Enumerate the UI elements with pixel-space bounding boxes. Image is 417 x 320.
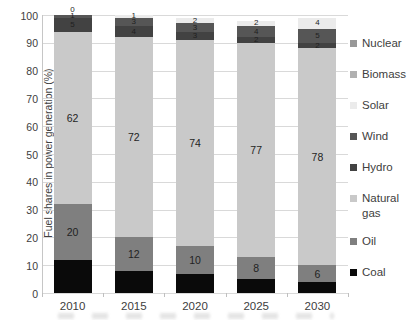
segment-label-solar-2010: 0 [70,6,74,14]
x-category-label-2010: 2010 [60,300,86,312]
y-tick-label-80: 80 [8,65,38,77]
segment-label-oil-2025: 8 [253,263,259,274]
legend-item-coal: Coal [350,265,416,283]
legend-item-hydro: Hydro [350,160,416,178]
segment-label-natural-gas-2015: 72 [128,132,140,143]
legend-label: Coal [362,265,386,280]
segment-label-hydro-2020: 3 [193,32,197,40]
legend-swatch-natural-gas-icon [350,195,357,202]
legend-swatch-nuclear-icon [350,40,357,47]
segment-label-solar-2020: 2 [193,17,197,25]
segment-label-wind-2030: 5 [315,32,319,40]
legend-item-solar: Solar [350,98,416,116]
legend-swatch-hydro-icon [350,164,357,171]
y-tick-label-0: 0 [8,288,38,300]
legend-label: Natural gas [362,191,416,221]
legend-label: Nuclear [362,36,402,51]
y-tick-label-50: 50 [8,149,38,161]
legend-swatch-solar-icon [350,102,357,109]
legend-label: Biomass [362,67,406,82]
chart-legend: NuclearBiomassSolarWindHydroNatural gasO… [350,36,416,283]
legend-swatch-coal-icon [350,269,357,276]
bar-segment-coal-2025 [237,279,275,293]
legend-swatch-wind-icon [350,133,357,140]
bar-segment-coal-2030 [298,282,336,293]
x-category-label-2030: 2030 [305,300,331,312]
x-category-label-2020: 2020 [182,300,208,312]
bar-segment-coal-2015 [115,271,153,293]
segment-label-solar-2025: 2 [254,19,258,27]
y-tick-label-20: 20 [8,232,38,244]
segment-label-oil-2015: 12 [128,249,140,260]
y-axis-line [42,15,43,293]
category-tick [103,293,104,297]
segment-label-oil-2010: 20 [67,227,79,238]
category-tick [42,293,43,297]
y-tick-label-40: 40 [8,176,38,188]
legend-item-oil: Oil [350,234,416,252]
y-tick-label-10: 10 [8,260,38,272]
segment-label-hydro-2010: 5 [70,21,74,29]
y-axis-title: Fuel shares in power generation (%) [42,43,54,263]
legend-label: Solar [362,98,389,113]
stacked-bar-chart-figure: Fuel shares in power generation (%) Nucl… [0,0,417,320]
segment-label-natural-gas-2030: 78 [312,152,324,163]
legend-label: Oil [362,234,376,249]
category-tick [287,293,288,297]
y-tick-label-90: 90 [8,37,38,49]
legend-item-wind: Wind [350,129,416,147]
legend-label: Wind [362,129,388,144]
y-tick-label-60: 60 [8,121,38,133]
legend-item-natural-gas: Natural gas [350,191,416,221]
y-tick-label-70: 70 [8,93,38,105]
bar-segment-coal-2020 [176,274,214,293]
legend-item-nuclear: Nuclear [350,36,416,54]
segment-label-solar-2015: 1 [132,12,136,20]
segment-label-natural-gas-2025: 77 [250,145,262,156]
legend-swatch-oil-icon [350,238,357,245]
segment-label-wind-2020: 3 [193,24,197,32]
y-tick-label-100: 100 [8,10,38,22]
category-tick [164,293,165,297]
category-tick [226,293,227,297]
segment-label-natural-gas-2010: 62 [67,113,79,124]
segment-label-oil-2030: 6 [314,268,320,279]
x-category-label-2025: 2025 [243,300,269,312]
legend-label: Hydro [362,160,393,175]
segment-label-oil-2020: 10 [189,254,201,265]
segment-label-natural-gas-2020: 74 [189,138,201,149]
category-tick [348,293,349,297]
cropped-caption-smudge [58,313,334,319]
segment-label-hydro-2015: 4 [132,28,136,36]
legend-item-biomass: Biomass [350,67,416,85]
segment-label-solar-2030: 4 [315,19,319,27]
gridline-0 [42,293,348,294]
y-tick-label-30: 30 [8,204,38,216]
segment-label-wind-2025: 4 [254,28,258,36]
bar-segment-coal-2010 [54,260,92,293]
x-category-label-2015: 2015 [121,300,147,312]
legend-swatch-biomass-icon [350,71,357,78]
